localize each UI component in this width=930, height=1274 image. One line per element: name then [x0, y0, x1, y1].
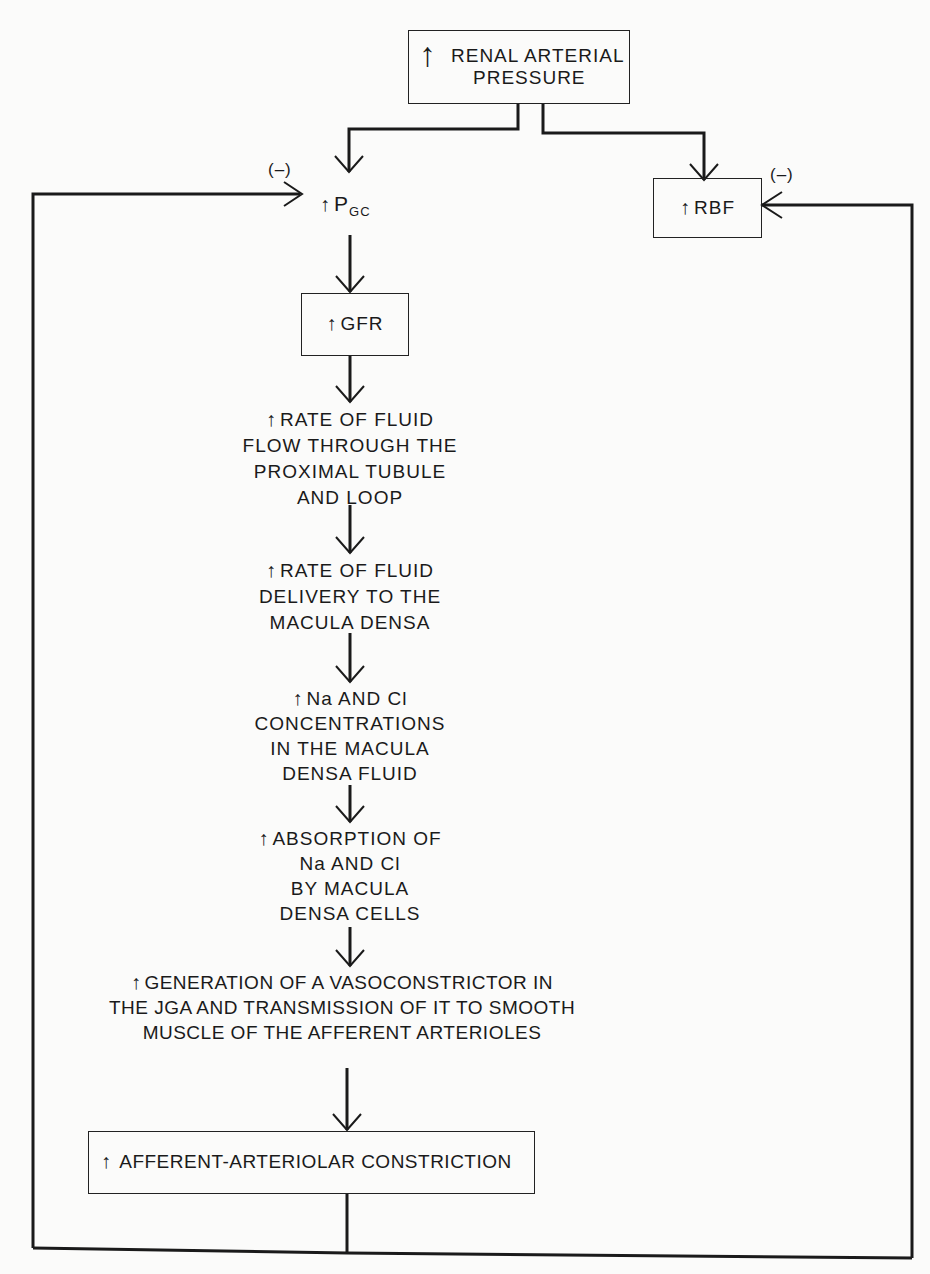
node-gfr: ↑GFR [301, 293, 409, 356]
increase-arrow-icon: ↑ [326, 312, 337, 334]
increase-arrow-icon: ↑ [680, 196, 691, 218]
node-fluid-delivery: ↑RATE OF FLUID DELIVERY TO THE MACULA DE… [245, 557, 455, 636]
node-rbf: ↑RBF [653, 178, 762, 238]
node-pgc: ↑PGC [320, 193, 371, 223]
node-na-cl-concentration: ↑Na AND Cl CONCENTRATIONS IN THE MACULA … [245, 686, 455, 786]
increase-arrow-icon: ↑ [266, 408, 277, 430]
edge-pressure-to-pgc [349, 103, 518, 172]
negative-feedback-label-pgc: (–) [268, 160, 292, 180]
increase-arrow-icon: ↑ [258, 827, 269, 849]
increase-arrow-icon: ↑ [266, 559, 277, 581]
negative-feedback-label-rbf: (–) [770, 165, 794, 185]
edge-pressure-to-rbf [543, 103, 704, 180]
increase-arrow-icon: ↑ [419, 43, 437, 65]
node-vasoconstrictor: ↑GENERATION OF A VASOCONSTRICTOR IN THE … [72, 970, 612, 1045]
increase-arrow-icon: ↑ [131, 971, 142, 993]
increase-arrow-icon: ↑ [320, 193, 331, 215]
increase-arrow-icon: ↑ [101, 1150, 112, 1172]
increase-arrow-icon: ↑ [293, 687, 304, 709]
node-renal-arterial-pressure: ↑ RENAL ARTERIAL PRESSURE [408, 30, 630, 104]
node-na-cl-absorption: ↑ABSORPTION OF Na AND Cl BY MACULA DENSA… [245, 826, 455, 926]
node-afferent-constriction: ↑ AFFERENT-ARTERIOLAR CONSTRICTION [88, 1131, 535, 1194]
connector-lines [0, 0, 930, 1274]
node-fluid-flow: ↑RATE OF FLUID FLOW THROUGH THE PROXIMAL… [240, 406, 460, 511]
